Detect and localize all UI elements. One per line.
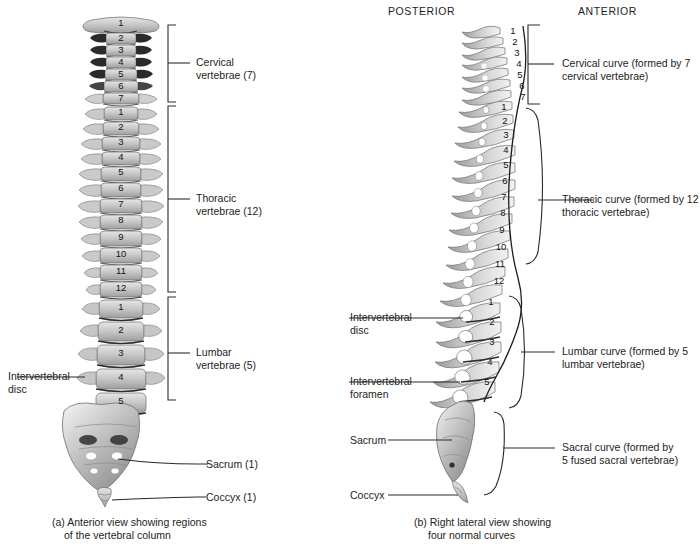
posterior-label: POSTERIOR <box>388 5 455 17</box>
anterior-coccyx-label: Coccyx (1) <box>206 491 256 504</box>
cervical-region-label: Cervical vertebrae (7) <box>196 56 256 81</box>
cervical-region-label-line2: vertebrae (7) <box>196 69 256 82</box>
anterior-vertebra-cervical-7: 7 <box>114 92 128 103</box>
cervical-curve-label: Cervical curve (formed by 7 cervical ver… <box>562 57 690 82</box>
thoracic-curve-bracket <box>526 108 543 264</box>
anterior-vertebra-thoracic-11: 11 <box>114 265 128 276</box>
lateral-intervertebral-foramen-label: Intervertebral foramen <box>350 375 412 400</box>
figure-canvas <box>0 0 700 550</box>
lateral-coccyx-label: Coccyx <box>350 489 384 502</box>
lateral-vertebra-thoracic-6: 6 <box>498 175 512 186</box>
panel-a-caption-line2: of the vertebral column <box>52 529 207 542</box>
lateral-vertebra-thoracic-2: 2 <box>498 115 512 126</box>
anterior-sacrum-label: Sacrum (1) <box>206 458 258 471</box>
lateral-vertebra-cervical-2: 2 <box>508 36 522 47</box>
lateral-vertebra-thoracic-7: 7 <box>497 191 511 202</box>
anterior-sacrum-shape <box>62 403 139 492</box>
lumbar-curve-label: Lumbar curve (formed by 5 lumbar vertebr… <box>562 345 688 370</box>
anterior-vertebra-cervical-2: 2 <box>114 32 128 43</box>
anterior-vertebra-cervical-1: 1 <box>114 17 128 28</box>
panel-b-caption-line2: four normal curves <box>414 529 551 542</box>
lateral-foramen-label-line1: Intervertebral <box>350 375 412 388</box>
anterior-vertebra-thoracic-4: 4 <box>114 151 128 162</box>
thoracic-curve-label-line2: thoracic vertebrae) <box>562 206 699 219</box>
anterior-vertebra-cervical-4: 4 <box>114 56 128 67</box>
lateral-vertebra-thoracic-9: 9 <box>495 224 509 235</box>
anterior-vertebra-thoracic-6: 6 <box>114 182 128 193</box>
cervical-curve-label-line2: cervical vertebrae) <box>562 70 690 83</box>
anterior-vertebra-thoracic-5: 5 <box>114 166 128 177</box>
lateral-sacrum-shape <box>437 401 475 482</box>
sacral-curve-label: Sacral curve (formed by 5 fused sacral v… <box>562 441 678 466</box>
anterior-vertebra-lumbar-3: 3 <box>114 347 128 358</box>
lateral-vertebra-thoracic-5: 5 <box>499 159 513 170</box>
anterior-vertebra-thoracic-9: 9 <box>114 231 128 242</box>
anterior-coccyx-shape <box>98 488 112 508</box>
anterior-vertebra-cervical-3: 3 <box>114 44 128 55</box>
thoracic-region-label: Thoracic vertebrae (12) <box>196 192 262 217</box>
lateral-vertebra-lumbar-5: 5 <box>480 376 494 387</box>
lateral-intervertebral-disc-label: Intervertebral disc <box>350 311 412 336</box>
panel-a-brackets <box>168 25 190 400</box>
anterior-label: ANTERIOR <box>578 5 637 17</box>
anterior-vertebra-lumbar-1: 1 <box>114 301 128 312</box>
lateral-vertebra-cervical-7: 7 <box>516 91 530 102</box>
thoracic-curve-label-line1: Thoracic curve (formed by 12 <box>562 193 699 206</box>
thoracic-region-label-line1: Thoracic <box>196 192 262 205</box>
anterior-vertebra-lumbar-5: 5 <box>114 395 128 406</box>
sacral-curve-label-line2: 5 fused sacral vertebrae) <box>562 454 678 467</box>
lateral-vertebra-cervical-3: 3 <box>510 47 524 58</box>
lumbar-bracket <box>168 297 176 400</box>
cervical-region-label-line1: Cervical <box>196 56 256 69</box>
thoracic-curve-label: Thoracic curve (formed by 12 thoracic ve… <box>562 193 699 218</box>
lateral-sacrum-label: Sacrum <box>350 434 386 447</box>
lateral-vertebra-cervical-6: 6 <box>515 80 529 91</box>
leader-sacrum <box>118 459 208 464</box>
anterior-vertebra-lumbar-4: 4 <box>114 371 128 382</box>
leader-coccyx <box>112 497 206 500</box>
lateral-vertebra-lumbar-2: 2 <box>485 316 499 327</box>
sacral-curve-label-line1: Sacral curve (formed by <box>562 441 678 454</box>
lumbar-curve-label-line2: lumbar vertebrae) <box>562 358 688 371</box>
panel-a-caption-line1: (a) Anterior view showing regions <box>52 516 207 529</box>
anterior-vertebra-thoracic-10: 10 <box>114 248 128 259</box>
lateral-vertebra-thoracic-10: 10 <box>494 241 508 252</box>
lateral-vertebra-thoracic-3: 3 <box>499 129 513 140</box>
cervical-curve-label-line1: Cervical curve (formed by 7 <box>562 57 690 70</box>
anterior-vertebra-thoracic-7: 7 <box>114 198 128 209</box>
lumbar-region-label-line1: Lumbar <box>196 346 256 359</box>
anterior-vertebra-thoracic-3: 3 <box>114 136 128 147</box>
lateral-spine-illustration <box>430 26 526 503</box>
lateral-disc-label-line2: disc <box>350 324 412 337</box>
lateral-vertebra-thoracic-4: 4 <box>499 144 513 155</box>
lateral-vertebra-cervical-5: 5 <box>513 69 527 80</box>
lateral-vertebra-cervical-1: 1 <box>506 25 520 36</box>
lateral-foramen-label-line2: foramen <box>350 388 412 401</box>
anterior-vertebra-thoracic-1: 1 <box>114 106 128 117</box>
anterior-vertebra-cervical-5: 5 <box>114 68 128 79</box>
anterior-intervertebral-disc-label: Intervertebral disc <box>8 370 70 395</box>
lumbar-curve-label-line1: Lumbar curve (formed by 5 <box>562 345 688 358</box>
lateral-vertebra-cervical-4: 4 <box>512 58 526 69</box>
anterior-vertebra-cervical-6: 6 <box>114 80 128 91</box>
lumbar-region-label-line2: vertebrae (5) <box>196 359 256 372</box>
vertebral-column-figure: POSTERIOR ANTERIOR Cervical vertebrae (7… <box>0 0 700 550</box>
panel-a-caption: (a) Anterior view showing regions of the… <box>52 516 207 542</box>
panel-b-caption-line1: (b) Right lateral view showing <box>414 516 551 529</box>
lateral-vertebra-thoracic-11: 11 <box>493 258 507 269</box>
anterior-vertebra-lumbar-2: 2 <box>114 324 128 335</box>
lateral-vertebra-lumbar-1: 1 <box>484 296 498 307</box>
sacral-curve-bracket <box>484 412 504 495</box>
lateral-vertebra-lumbar-3: 3 <box>485 336 499 347</box>
lateral-vertebra-thoracic-1: 1 <box>497 101 511 112</box>
lumbar-region-label: Lumbar vertebrae (5) <box>196 346 256 371</box>
anterior-disc-label-line1: Intervertebral <box>8 370 70 383</box>
lateral-vertebra-thoracic-12: 12 <box>492 275 506 286</box>
lateral-vertebra-lumbar-4: 4 <box>483 356 497 367</box>
lateral-coccyx-shape <box>452 481 468 503</box>
lateral-vertebra-thoracic-8: 8 <box>496 207 510 218</box>
anterior-vertebra-thoracic-2: 2 <box>114 121 128 132</box>
thoracic-region-label-line2: vertebrae (12) <box>196 205 262 218</box>
anterior-vertebra-thoracic-8: 8 <box>114 214 128 225</box>
anterior-vertebra-thoracic-12: 12 <box>114 282 128 293</box>
